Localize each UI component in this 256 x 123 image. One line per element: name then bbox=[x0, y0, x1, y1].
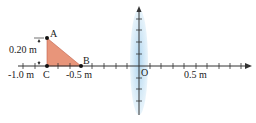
label-a: A bbox=[50, 29, 57, 39]
tick-label-0-5: 0.5 m bbox=[184, 70, 207, 80]
label-c: C bbox=[43, 70, 50, 80]
tick-label-minus-0-5: -0.5 m bbox=[66, 70, 92, 80]
origin-label: O bbox=[141, 68, 148, 78]
object-triangle bbox=[47, 38, 81, 66]
diagram-canvas bbox=[0, 0, 256, 123]
tick-label-minus-1: -1.0 m bbox=[8, 70, 34, 80]
height-label: 0.20 m bbox=[9, 45, 37, 55]
label-b: B bbox=[83, 56, 90, 66]
point-c bbox=[45, 64, 49, 68]
point-a bbox=[45, 36, 49, 40]
